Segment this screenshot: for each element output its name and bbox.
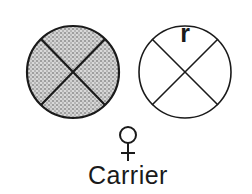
stippled-chromosome-circle	[27, 26, 119, 118]
allele-r-label: r	[175, 19, 195, 48]
carrier-caption: Carrier	[0, 161, 252, 190]
female-symbol-icon	[120, 127, 136, 161]
